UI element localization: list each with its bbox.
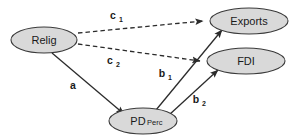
path-diagram-svg: c 1 c 2 a b 1 b 2 Relig bbox=[0, 0, 291, 140]
edge-label-c1-text: c bbox=[110, 9, 116, 21]
edge-label-c2-subscript: 2 bbox=[116, 61, 120, 68]
node-exports-label: Exports bbox=[230, 15, 268, 27]
edge-label-group: c 1 c 2 a b 1 b 2 bbox=[70, 9, 206, 107]
edge-label-a-text: a bbox=[70, 79, 76, 91]
edge-label-c1: c 1 bbox=[110, 9, 123, 23]
edge-b1-pdperc-to-exports bbox=[156, 30, 222, 110]
edge-label-a: a bbox=[70, 79, 76, 91]
node-relig-label: Relig bbox=[31, 34, 56, 46]
edge-label-c2: c 2 bbox=[107, 54, 120, 68]
edge-label-b1-subscript: 1 bbox=[168, 74, 172, 81]
node-relig[interactable]: Relig bbox=[11, 27, 77, 53]
node-pdperc[interactable]: PD Perc bbox=[109, 108, 177, 134]
edge-label-b2-subscript: 2 bbox=[202, 100, 206, 107]
node-pdperc-subscript: Perc bbox=[147, 118, 163, 127]
node-fdi[interactable]: FDI bbox=[207, 48, 285, 74]
edge-label-b2-text: b bbox=[193, 93, 199, 105]
node-exports[interactable]: Exports bbox=[210, 8, 288, 34]
edge-label-b1: b 1 bbox=[159, 67, 172, 81]
edge-label-b2: b 2 bbox=[193, 93, 206, 107]
edge-label-b1-text: b bbox=[159, 67, 165, 79]
edge-a-relig-to-pdperc bbox=[52, 53, 124, 114]
edge-c1-relig-to-exports bbox=[78, 21, 203, 33]
node-pdperc-label: PD bbox=[130, 115, 145, 127]
edge-c2-relig-to-fdi bbox=[78, 44, 200, 61]
edge-label-c1-subscript: 1 bbox=[119, 16, 123, 23]
path-diagram-canvas: c 1 c 2 a b 1 b 2 Relig bbox=[0, 0, 291, 140]
node-fdi-label: FDI bbox=[237, 55, 255, 67]
edge-label-c2-text: c bbox=[107, 54, 113, 66]
node-group: Relig Exports FDI PD Perc bbox=[11, 8, 288, 134]
